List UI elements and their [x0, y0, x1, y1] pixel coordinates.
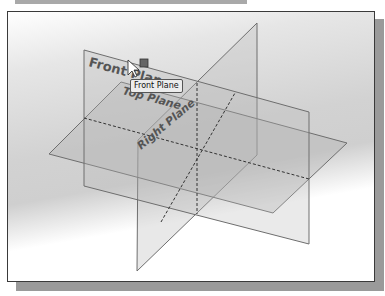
tooltip: Front Plane: [130, 79, 183, 93]
datum-planes-scene: Front Plane Top Plane Right Plane: [0, 0, 385, 296]
plane-select-icon: [140, 59, 148, 67]
front-plane[interactable]: [84, 50, 309, 244]
